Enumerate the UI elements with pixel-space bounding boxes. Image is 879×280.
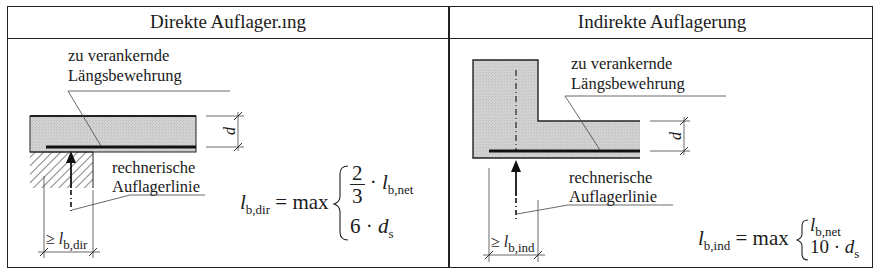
fraction-denominator: 3 [350,185,365,207]
support-arrow-icon [511,160,521,172]
formula-case-2: 10 · ds [810,236,859,262]
reinforcement-label-line2: Längsbewehrung [571,74,685,93]
multiply-operator: · [370,170,377,194]
support-line-label-line2: Auflagerlinie [569,187,657,206]
formula-lhs-subscript: b,ind [704,238,730,253]
indirect-anchorage-formula-lhs: lb,ind = max [698,226,789,254]
support-line-label-line1: rechnerische [569,168,652,187]
depth-dimension-label: d [221,127,239,135]
direct-anchorage-formula-lhs: lb,dir = max [240,190,329,218]
left-brace-icon [797,220,808,260]
left-brace-icon [334,166,348,240]
depth-dimension-label: d [667,132,685,140]
fraction: 2 3 [350,162,365,207]
fraction-numerator: 2 [350,162,365,185]
case2-subscript: s [389,226,394,241]
reinforcement-label-line1: zu verankernde [68,46,169,65]
formula-equals-max: = max [735,226,788,250]
length-dimension-label: ≥ lb,ind [491,233,535,256]
case2-subscript: s [854,246,859,261]
case2-symbol: d [378,214,389,238]
case1-subscript: b,net [388,182,414,197]
reinforcement-label-line1: zu verankernde [571,54,672,73]
case2-factor: 6 · [350,214,373,238]
geq-symbol: ≥ [491,233,500,250]
case2-factor: 10 · [810,236,840,257]
formula-lhs-subscript: b,dir [246,202,270,217]
length-subscript: b,ind [508,240,534,255]
formula-case-1: 2 3 · lb,net [350,162,413,207]
support-line-label-line1: rechnerische [112,158,195,177]
geq-symbol: ≥ [46,230,55,247]
length-subscript: b,dir [63,237,87,252]
formula-case-2: 6 · ds [350,214,394,242]
support-hatch-icon [30,152,93,188]
case2-symbol: d [845,236,855,257]
support-line-label-line2: Auflagerlinie [112,177,200,196]
formula-equals-max: = max [275,190,328,214]
reinforcement-label-line2: Längsbewehrung [68,66,182,85]
length-dimension-label: ≥ lb,dir [46,230,87,253]
